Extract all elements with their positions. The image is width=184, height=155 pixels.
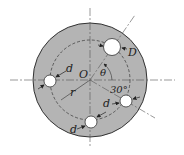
small-hole-left — [44, 75, 56, 87]
label-30deg: 30° — [110, 84, 128, 95]
small-hole-bottom — [85, 116, 97, 128]
label-d-bottom: d — [70, 123, 77, 136]
large-hole — [104, 39, 121, 56]
label-O: O — [79, 68, 88, 81]
label-D: D — [127, 46, 137, 59]
label-r: r — [70, 86, 76, 99]
label-theta: θ — [100, 67, 106, 78]
label-d-left: d — [66, 62, 73, 75]
small-hole-right — [120, 95, 132, 107]
label-d-right: d — [103, 97, 110, 110]
disk-diagram: D d d d O r θ 30° — [0, 0, 184, 155]
